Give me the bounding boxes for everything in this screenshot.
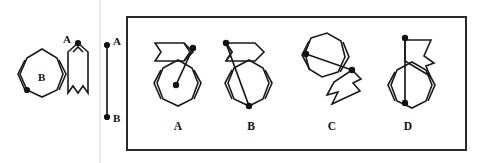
option-b-point-b-dot [246, 103, 252, 109]
option-d-flag [405, 40, 434, 76]
stimulus-octagon-piece: B [18, 49, 66, 97]
connector-endpoint-b-dot [104, 114, 110, 120]
option-c-label: C [328, 120, 336, 132]
option-d-octagon [391, 62, 432, 108]
ribbon-outline [68, 43, 88, 93]
option-a[interactable]: A [154, 43, 201, 132]
option-a-label: A [174, 120, 183, 132]
octagon-point-b-dot [24, 87, 30, 93]
octagon-point-b-label: B [38, 71, 46, 83]
option-b-point-a-dot [223, 40, 229, 46]
option-d-point-a-dot [402, 35, 408, 41]
connector-endpoint-b-label: B [113, 112, 121, 124]
option-d[interactable]: D [388, 35, 435, 132]
option-d-label: D [404, 120, 412, 132]
ribbon-point-a-label: A [63, 33, 71, 45]
option-a-point-a-dot [190, 45, 196, 51]
option-b-label: B [247, 120, 255, 132]
ribbon-inner-fold [73, 47, 83, 52]
option-c-point-a-dot [349, 67, 355, 73]
option-a-point-b-dot [173, 82, 179, 88]
option-c-point-b-dot [303, 51, 309, 57]
option-c[interactable]: C [302, 33, 361, 132]
figure-canvas: B A A B A [0, 0, 479, 163]
ribbon-point-a-dot [75, 40, 81, 46]
option-d-point-b-dot [402, 100, 408, 106]
puzzle-svg: B A A B A [0, 0, 479, 163]
option-b[interactable]: B [223, 40, 272, 132]
connector-endpoint-a-dot [104, 42, 110, 48]
stimulus-ribbon-piece: A [63, 33, 88, 93]
option-a-banner [155, 43, 193, 61]
connector-endpoint-a-label: A [113, 35, 121, 47]
stimulus-connector-segment: A B [104, 35, 121, 124]
option-c-banner [327, 70, 361, 104]
